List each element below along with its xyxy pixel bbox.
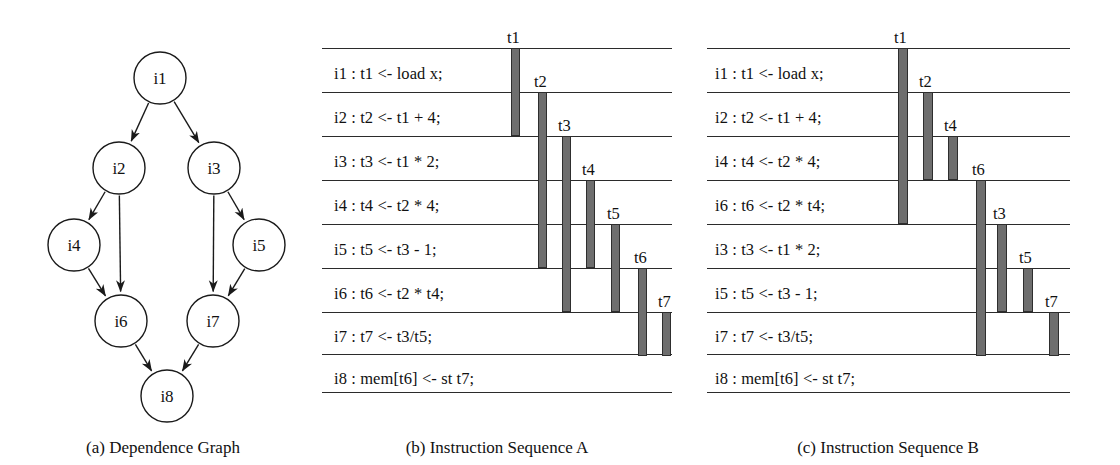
lifetime-label-b-t7: t7 <box>1045 292 1058 312</box>
sequence-b-rule-7 <box>707 312 1070 313</box>
instruction-a-i6: i6 : t6 <- t2 * t4; <box>334 284 444 304</box>
sequence-a-rule-9 <box>322 392 672 393</box>
graph-node-i2[interactable]: i2 <box>93 142 145 194</box>
panel-dependence-graph: i1i2i3i4i5i6i7i8 <box>0 0 320 465</box>
dependence-graph-nodes: i1i2i3i4i5i6i7i8 <box>48 52 285 422</box>
dependence-edge-i2-i6 <box>119 195 120 291</box>
sequence-a-rule-3 <box>322 136 672 137</box>
graph-node-label: i6 <box>114 312 127 331</box>
sequence-a-rule-4 <box>322 180 672 181</box>
dependence-edge-i3-i5 <box>228 192 244 220</box>
graph-node-i3[interactable]: i3 <box>188 142 240 194</box>
lifetime-bar-a-t2 <box>538 92 547 268</box>
graph-node-label: i3 <box>207 159 220 178</box>
sequence-b-rule-1 <box>707 48 1070 49</box>
graph-node-i4[interactable]: i4 <box>48 219 100 271</box>
instruction-a-i1: i1 : t1 <- load x; <box>334 64 443 84</box>
graph-node-i5[interactable]: i5 <box>233 219 285 271</box>
graph-node-i6[interactable]: i6 <box>95 295 147 347</box>
dependence-edge-i5-i7 <box>228 269 244 296</box>
sequence-b-rule-4 <box>707 180 1070 181</box>
dependence-edge-i4-i6 <box>88 268 105 296</box>
instruction-b-i1: i1 : t1 <- load x; <box>715 64 824 84</box>
caption-panel-b: (b) Instruction Sequence A <box>406 438 589 458</box>
lifetime-label-b-t1: t1 <box>894 28 907 48</box>
graph-node-label: i4 <box>67 236 81 255</box>
lifetime-bar-b-t2 <box>923 92 933 180</box>
sequence-b-rule-3 <box>707 136 1070 137</box>
lifetime-bar-b-t1 <box>898 48 908 224</box>
graph-node-label: i5 <box>252 236 265 255</box>
lifetime-label-a-t1: t1 <box>507 28 520 48</box>
lifetime-label-b-t3: t3 <box>993 204 1006 224</box>
graph-node-i7[interactable]: i7 <box>187 295 239 347</box>
instruction-a-i4: i4 : t4 <- t2 * 4; <box>334 196 440 216</box>
instruction-b-i8: i8 : mem[t6] <- st t7; <box>715 369 855 389</box>
dependence-edge-i3-i7 <box>213 195 214 291</box>
graph-node-label: i2 <box>112 159 125 178</box>
graph-node-label: i7 <box>206 312 220 331</box>
dependence-edge-i1-i2 <box>131 103 148 141</box>
instruction-a-i7: i7 : t7 <- t3/t5; <box>334 327 432 347</box>
lifetime-bar-a-t1 <box>511 48 520 136</box>
lifetime-bar-a-t4 <box>586 180 595 268</box>
lifetime-label-a-t4: t4 <box>582 160 595 180</box>
sequence-a-rule-2 <box>322 92 672 93</box>
graph-node-i8[interactable]: i8 <box>141 370 193 422</box>
sequence-a-rule-1 <box>322 48 672 49</box>
sequence-a-rule-7 <box>322 312 672 313</box>
lifetime-label-a-t6: t6 <box>634 248 647 268</box>
sequence-b-rule-5 <box>707 224 1070 225</box>
dependence-edge-i1-i3 <box>174 102 199 143</box>
lifetime-label-a-t7: t7 <box>658 292 671 312</box>
instruction-b-i4: i4 : t4 <- t2 * 4; <box>715 152 821 172</box>
dependence-edge-i7-i8 <box>182 344 198 370</box>
lifetime-bar-a-t5 <box>611 224 620 312</box>
graph-node-label: i1 <box>153 69 166 88</box>
lifetime-label-b-t4: t4 <box>944 116 957 136</box>
sequence-b-rule-6 <box>707 268 1070 269</box>
graph-node-label: i8 <box>160 387 173 406</box>
instruction-b-i3: i3 : t3 <- t1 * 2; <box>715 240 821 260</box>
instruction-a-i5: i5 : t5 <- t3 - 1; <box>334 240 437 260</box>
dependence-edge-i2-i4 <box>89 192 105 220</box>
sequence-b-rule-2 <box>707 92 1070 93</box>
lifetime-label-a-t3: t3 <box>558 116 571 136</box>
lifetime-bar-b-t5 <box>1023 268 1033 312</box>
instruction-a-i3: i3 : t3 <- t1 * 2; <box>334 152 440 172</box>
lifetime-bar-a-t3 <box>562 136 571 312</box>
instruction-b-i5: i5 : t5 <- t3 - 1; <box>715 284 818 304</box>
graph-node-i1[interactable]: i1 <box>134 52 186 104</box>
lifetime-bar-a-t7 <box>662 312 671 356</box>
lifetime-label-a-t5: t5 <box>607 204 620 224</box>
lifetime-label-b-t5: t5 <box>1019 248 1032 268</box>
panel-instruction-sequence-b: i1 : t1 <- load x;i2 : t2 <- t1 + 4;i4 :… <box>700 0 1120 465</box>
lifetime-label-b-t2: t2 <box>919 72 932 92</box>
instruction-b-i7: i7 : t7 <- t3/t5; <box>715 327 813 347</box>
lifetime-bar-b-t3 <box>997 224 1007 312</box>
caption-panel-c: (c) Instruction Sequence B <box>797 438 979 458</box>
figure-root: i1i2i3i4i5i6i7i8 i1 : t1 <- load x;i2 : … <box>0 0 1120 465</box>
lifetime-bar-b-t7 <box>1049 312 1059 356</box>
instruction-b-i2: i2 : t2 <- t1 + 4; <box>715 108 822 128</box>
instruction-a-i8: i8 : mem[t6] <- st t7; <box>334 369 474 389</box>
instruction-a-i2: i2 : t2 <- t1 + 4; <box>334 108 441 128</box>
sequence-b-rule-9 <box>707 392 1070 393</box>
lifetime-label-a-t2: t2 <box>534 72 547 92</box>
dependence-edge-i6-i8 <box>135 344 151 370</box>
sequence-a-rule-8 <box>322 354 672 355</box>
sequence-b-rule-8 <box>707 354 1070 355</box>
caption-panel-a: (a) Dependence Graph <box>86 438 240 458</box>
lifetime-bar-b-t6 <box>976 180 986 356</box>
lifetime-label-b-t6: t6 <box>972 160 985 180</box>
dependence-graph-svg: i1i2i3i4i5i6i7i8 <box>0 0 320 465</box>
lifetime-bar-a-t6 <box>638 268 647 356</box>
lifetime-bar-b-t4 <box>948 136 958 180</box>
panel-instruction-sequence-a: i1 : t1 <- load x;i2 : t2 <- t1 + 4;i3 :… <box>320 0 700 465</box>
instruction-b-i6: i6 : t6 <- t2 * t4; <box>715 196 825 216</box>
